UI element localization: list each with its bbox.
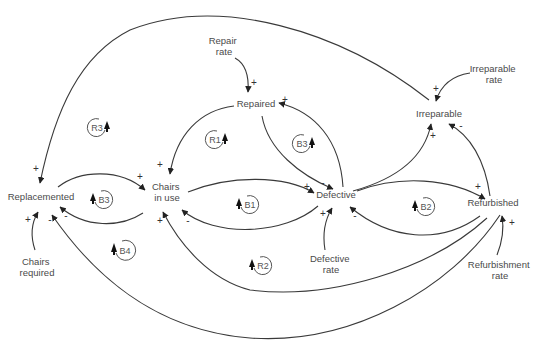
node-repair-rate: Repair rate (209, 35, 240, 57)
node-replacemented: Replacemented (8, 191, 75, 202)
sign-repaired-defective: - (321, 177, 324, 188)
node-chairs-in-use: Chairs in use (152, 181, 182, 203)
sign-defective-repaired: + (282, 94, 288, 105)
loop-marker-r2: R2 (249, 257, 272, 275)
loop-marker-r3: R3 (87, 119, 110, 137)
sign-repair-rate-repaired: + (251, 77, 257, 88)
sign-chairs-in-use-defective: + (304, 181, 310, 192)
loop-marker-b2: B2 (412, 198, 435, 216)
edge-irreparable-rate-to-irreparable (436, 73, 470, 101)
sign-replacemented-chairs-in-use: + (137, 171, 143, 182)
loop-label: R1 (209, 135, 221, 145)
sign-irreparable-rate-irreparable: + (433, 83, 439, 94)
sign-defective-rate-defective: + (320, 208, 326, 219)
node-irreparable-rate: Irreparable rate (470, 63, 519, 85)
loop-marker-b3-upper: B3 (292, 135, 315, 153)
loop-label: B3 (98, 195, 109, 205)
sign-irreparable-replacemented: + (33, 163, 39, 174)
sign-refurbishment-rate-refurbished: + (509, 217, 515, 228)
loop-marker-b3-left: B3 (90, 191, 113, 209)
loop-marker-r1: R1 (205, 131, 228, 149)
loop-label: R2 (257, 261, 269, 271)
sign-defective-chairs-in-use: - (186, 215, 189, 226)
sign-chairs-required-replacemented: + (25, 214, 31, 225)
node-defective-rate: Defective rate (310, 253, 352, 275)
causal-loop-diagram: + + - + + + + - + - + - + - + - + + + Re… (0, 0, 541, 355)
edge-chairs-in-use-to-replacemented (60, 207, 143, 224)
node-defective: Defective (316, 189, 356, 200)
edge-refurbished-to-irreparable (449, 124, 490, 196)
loop-label: B1 (244, 200, 255, 210)
edge-refurbished-to-replacemented (52, 215, 500, 339)
node-chairs-required: Chairs required (20, 256, 55, 278)
edge-repair-rate-to-repaired (235, 58, 248, 92)
node-refurbished: Refurbished (467, 197, 518, 208)
loop-marker-b4: B4 (111, 240, 136, 260)
edge-replacemented-to-chairs-in-use (58, 174, 145, 190)
sign-chairs-in-use-replacemented: - (64, 210, 67, 221)
edge-chairs-in-use-to-defective (188, 179, 314, 193)
edge-refurbishment-rate-to-refurbished (497, 216, 503, 255)
nodes: Repair rate Repaired Irreparable rate Ir… (8, 35, 532, 281)
sign-refurbished-defective: - (353, 210, 356, 221)
edge-chairs-required-to-replacemented (32, 212, 38, 250)
loop-marker-b1: B1 (236, 196, 259, 214)
node-repaired: Repaired (237, 98, 276, 109)
sign-refurbished-chairs-in-use: + (157, 215, 163, 226)
loop-label: B4 (119, 246, 130, 256)
sign-refurbished-replacemented: - (48, 214, 51, 225)
sign-defective-refurbished: + (475, 181, 481, 192)
loop-label: R3 (91, 123, 103, 133)
edge-refurbished-to-defective (350, 207, 480, 235)
loop-markers: R3 R1 B3 B3 B1 B2 (87, 119, 434, 275)
node-irreparable: Irreparable (416, 108, 462, 119)
loop-label: B2 (420, 202, 431, 212)
sign-defective-irreparable: + (430, 130, 436, 141)
loop-label: B3 (296, 139, 307, 149)
sign-repaired-chairs-in-use: + (157, 159, 163, 170)
edges (32, 16, 503, 338)
sign-refurbished-irreparable: - (459, 120, 462, 131)
node-refurbishment-rate: Refurbishment rate (468, 259, 532, 281)
